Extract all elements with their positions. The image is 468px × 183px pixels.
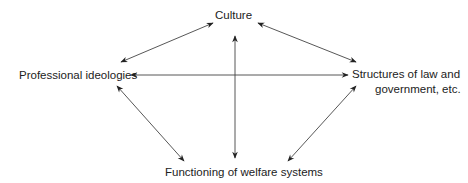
arrow-culture-structures [258,23,356,62]
node-professional-ideologies: Professional ideologies [19,68,137,82]
node-structures-line1: Structures of law and [352,67,460,81]
arrow-structures-functioning [288,86,356,161]
node-culture: Culture [215,8,252,22]
arrow-professional-functioning [117,86,184,161]
arrow-culture-professional [121,23,213,62]
node-structures-line2: government, etc. [375,82,461,96]
node-functioning-welfare: Functioning of welfare systems [165,165,323,179]
